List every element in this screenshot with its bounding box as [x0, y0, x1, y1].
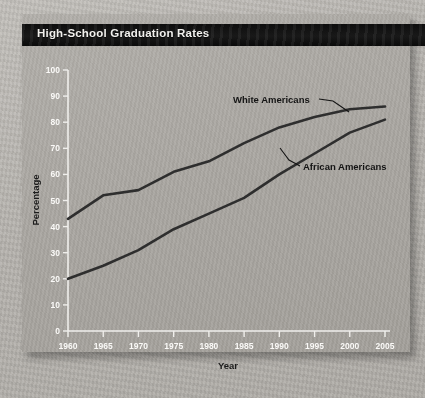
x-axis-ticks: 1960196519701975198019851990199520002005: [59, 331, 395, 351]
x-tick-label: 1980: [199, 341, 218, 351]
x-tick-label: 1985: [235, 341, 254, 351]
y-tick-label: 20: [51, 274, 61, 284]
x-tick-label: 1975: [164, 341, 183, 351]
x-axis-title: Year: [218, 360, 238, 371]
y-tick-label: 60: [51, 169, 61, 179]
x-tick-label: 1960: [59, 341, 78, 351]
y-tick-label: 100: [46, 65, 60, 75]
y-axis-title: Percentage: [30, 174, 41, 225]
y-tick-label: 90: [51, 91, 61, 101]
series-line-african-americans: [68, 120, 385, 279]
y-tick-label: 50: [51, 196, 61, 206]
x-tick-label: 1965: [94, 341, 113, 351]
y-tick-label: 0: [55, 326, 60, 336]
annotation-african-americans: African Americans: [280, 148, 387, 172]
x-tick-label: 2005: [376, 341, 395, 351]
line-chart: 0102030405060708090100 19601965197019751…: [0, 0, 425, 398]
chart-series-layer: [68, 107, 385, 279]
x-tick-label: 2000: [340, 341, 359, 351]
annotation-label-white-americans: White Americans: [233, 94, 310, 105]
chart-axes: [68, 70, 390, 331]
y-tick-label: 70: [51, 143, 61, 153]
y-tick-label: 80: [51, 117, 61, 127]
y-axis-ticks: 0102030405060708090100: [46, 65, 68, 336]
x-tick-label: 1970: [129, 341, 148, 351]
annotation-white-americans: White Americans: [233, 94, 349, 112]
y-tick-label: 10: [51, 300, 61, 310]
y-tick-label: 40: [51, 222, 61, 232]
y-tick-label: 30: [51, 248, 61, 258]
annotation-label-african-americans: African Americans: [303, 161, 387, 172]
x-tick-label: 1990: [270, 341, 289, 351]
x-tick-label: 1995: [305, 341, 324, 351]
